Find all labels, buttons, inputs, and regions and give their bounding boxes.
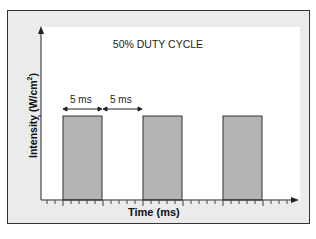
x-axis-label: Time (ms) [128,206,180,218]
off-duration-label: 5 ms [110,94,132,105]
duration-arrow-on [63,107,102,111]
y-axis-label-end: ) [27,73,39,77]
duration-arrow-off [103,107,142,111]
y-axis-label: Intensity (W/cm2) [26,73,39,158]
on-duration-label: 5 ms [70,94,92,105]
pulse-bar-2 [143,116,182,200]
y-axis-arrow-icon [38,26,44,34]
chart-title: 50% DUTY CYCLE [0,38,316,50]
x-axis-arrow-icon [291,197,299,203]
y-axis-label-sup: 2 [26,77,33,81]
pulse-bar-3 [223,116,262,200]
pulse-bar-1 [63,116,102,200]
y-axis-label-base: Intensity (W/cm [27,80,39,158]
chart-graphics [0,0,316,239]
